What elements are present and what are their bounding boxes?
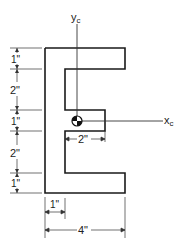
dim-label-top-flange: 1" (11, 54, 21, 65)
svg-text:yc: yc (71, 11, 81, 25)
dim-label-overall-width: 4" (78, 224, 88, 236)
dim-label-flange-width: 1" (50, 199, 60, 210)
dim-label-bottom-flange: 1" (11, 178, 21, 189)
dim-label-lower-gap: 2" (10, 147, 20, 159)
dim-label-upper-gap: 2" (10, 84, 20, 96)
section-outline (45, 48, 125, 193)
dim-label-tongue: 1" (11, 116, 21, 127)
e-section-diagram: yc xc 1" 2" 1" 2" 1" 2" (0, 0, 185, 247)
svg-text:xc: xc (164, 114, 174, 128)
centroid-icon (72, 116, 82, 126)
dim-label-tongue-length: 2" (78, 133, 88, 145)
